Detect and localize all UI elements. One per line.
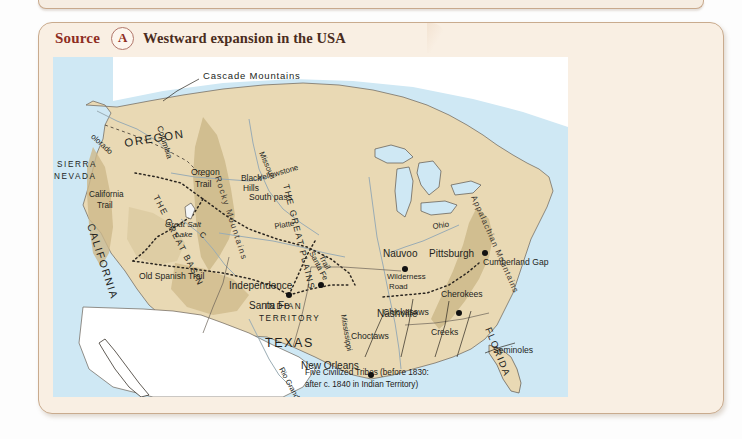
label-independence: Independence bbox=[229, 280, 293, 291]
city-dot-nashville bbox=[456, 310, 462, 316]
label-great-salt-lake-line1: Great Salt bbox=[165, 220, 202, 229]
city-dot-pittsburgh bbox=[482, 250, 488, 256]
key-line-2: after c. 1840 in Indian Territory) bbox=[305, 380, 418, 389]
label-texas: TEXAS bbox=[265, 336, 314, 350]
source-letter-badge: A bbox=[111, 27, 134, 50]
label-choctaws: Choctaws bbox=[351, 331, 389, 341]
label-creeks: Creeks bbox=[431, 327, 458, 337]
city-dot-santa-fe bbox=[286, 292, 292, 298]
key-line-1: Five Civilized Tribes (before 1830: bbox=[305, 368, 429, 377]
source-card: Source A Westward expansion in the USA bbox=[38, 22, 724, 414]
label-cumberland-gap: Cumberland Gap bbox=[483, 257, 549, 267]
label-chickasaws: Chickasaws bbox=[383, 307, 429, 317]
previous-source-card-edge bbox=[38, 0, 704, 9]
label-great-salt-lake-line2: Lake bbox=[175, 230, 193, 239]
label-wilderness-road-line2: Road bbox=[389, 282, 408, 291]
label-pittsburgh: Pittsburgh bbox=[429, 248, 474, 259]
source-label: Source bbox=[55, 30, 100, 47]
label-oregon-trail-line2: Trail bbox=[195, 179, 211, 189]
label-california-trail-line1: California bbox=[89, 190, 124, 199]
label-oregon-trail-line1: Oregon bbox=[191, 167, 220, 177]
label-black-hills-line1: Black bbox=[241, 173, 262, 183]
label-cherokees: Cherokees bbox=[441, 289, 483, 299]
label-wilderness-road-line1: Wilderness bbox=[387, 272, 426, 281]
label-nauvoo: Nauvoo bbox=[383, 248, 418, 259]
city-dot-independence bbox=[318, 282, 324, 288]
label-old-spanish-trail: Old Spanish Trail bbox=[139, 271, 205, 281]
label-sierra-nevada-line1: SIERRA bbox=[57, 160, 97, 169]
label-sierra-nevada-line2: NEVADA bbox=[54, 172, 97, 181]
label-california-trail-line2: Trail bbox=[97, 201, 113, 210]
source-header: Source A Westward expansion in the USA bbox=[39, 23, 429, 53]
map-image: Cascade Mountains Columbia OREGON Oregon… bbox=[53, 57, 568, 397]
source-title: Westward expansion in the USA bbox=[143, 30, 346, 47]
label-cascade-mountains: Cascade Mountains bbox=[203, 70, 301, 81]
label-indian-territory-line1: INDIAN bbox=[265, 302, 302, 311]
label-indian-territory-line2: TERRITORY bbox=[259, 314, 320, 323]
